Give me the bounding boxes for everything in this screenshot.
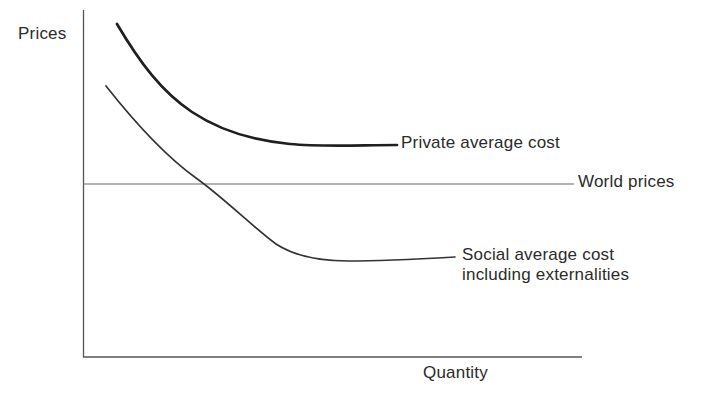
x-axis-label: Quantity: [423, 363, 488, 383]
private-average-cost-label: Private average cost: [401, 133, 560, 153]
social-average-cost-label: Social average cost including externalit…: [462, 245, 629, 285]
world-prices-label: World prices: [578, 172, 675, 192]
social-average-cost-curve: [106, 86, 455, 261]
social-average-cost-label-line1: Social average cost: [462, 245, 614, 264]
y-axis-label: Prices: [18, 24, 66, 44]
chart-plot-area: [0, 0, 723, 409]
social-average-cost-label-line2: including externalities: [462, 265, 629, 285]
chart-figure: Prices Quantity Private average cost Wor…: [0, 0, 723, 409]
private-average-cost-curve: [117, 24, 397, 146]
